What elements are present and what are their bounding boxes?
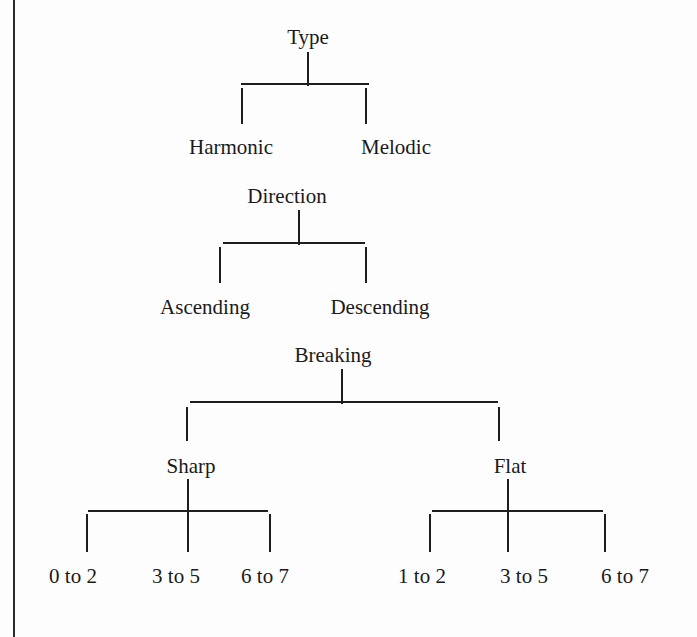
node-melodic: Melodic [361, 137, 431, 158]
node-sharp: Sharp [167, 456, 216, 477]
direction-connectors [220, 210, 366, 283]
leaf-flat-3-to-5: 3 to 5 [500, 566, 548, 587]
node-type: Type [287, 27, 329, 48]
leaf-flat-6-to-7: 6 to 7 [601, 566, 649, 587]
node-harmonic: Harmonic [189, 137, 273, 158]
node-direction: Direction [247, 186, 326, 207]
sharp-connectors [87, 479, 270, 552]
type-connectors [241, 52, 369, 124]
diagram-canvas: Type Harmonic Melodic Direction Ascendin… [0, 0, 697, 637]
node-ascending: Ascending [160, 297, 250, 318]
leaf-sharp-0-to-2: 0 to 2 [49, 566, 97, 587]
node-flat: Flat [494, 456, 527, 477]
breaking-connectors [187, 369, 499, 441]
leaf-sharp-3-to-5: 3 to 5 [152, 566, 200, 587]
leaf-sharp-6-to-7: 6 to 7 [241, 566, 289, 587]
flat-connectors [430, 479, 605, 552]
leaf-flat-1-to-2: 1 to 2 [398, 566, 446, 587]
node-descending: Descending [330, 297, 429, 318]
node-breaking: Breaking [295, 345, 372, 366]
